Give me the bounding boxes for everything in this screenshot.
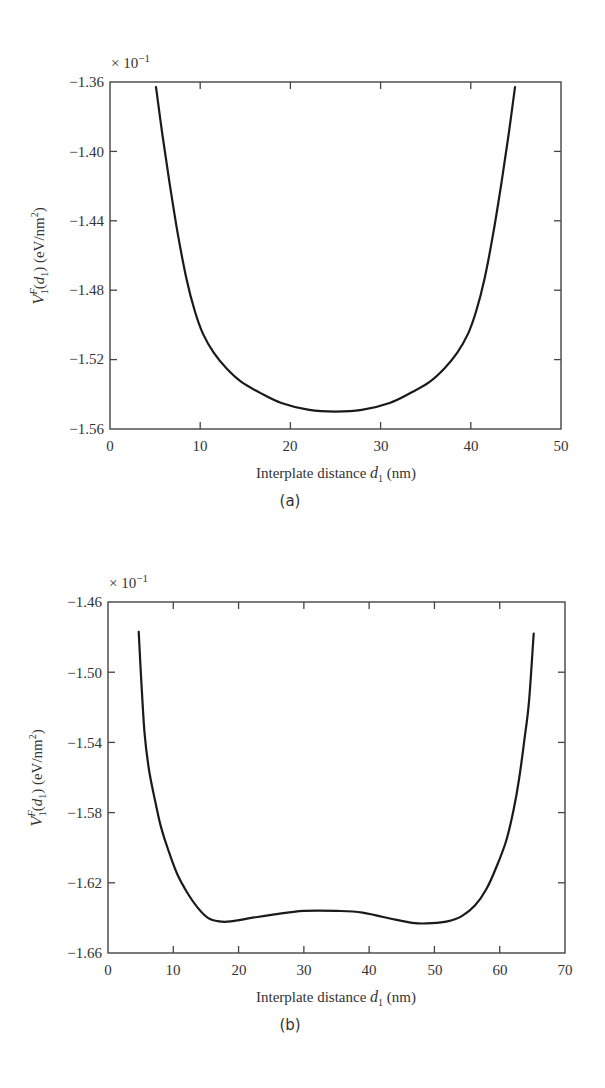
data-curve-b [139, 632, 534, 924]
x-tick-label: 0 [106, 438, 114, 454]
x-tick-label: 30 [374, 438, 389, 454]
panel-caption-a: (a) [280, 492, 301, 510]
x-tick-label: 10 [166, 962, 181, 978]
x-tick-label: 30 [297, 962, 312, 978]
y-multiplier-a: × 10−1 [111, 52, 150, 71]
y-tick-label: −1.46 [67, 594, 102, 610]
y-tick-labels-a: −1.36 −1.40 −1.44 −1.48 −1.52 −1.56 [69, 74, 104, 437]
y-tick-label: −1.58 [67, 805, 102, 821]
x-tick-labels-a: 0 10 20 30 40 50 [106, 438, 568, 454]
y-tick-label: −1.54 [67, 735, 102, 751]
y-tick-label: −1.52 [69, 351, 104, 367]
x-tick-label: 50 [554, 438, 569, 454]
y-tick-labels-b: −1.46 −1.50 −1.54 −1.58 −1.62 −1.66 [67, 594, 102, 961]
x-tick-label: 40 [362, 962, 377, 978]
y-multiplier-b: × 10−1 [109, 572, 148, 591]
x-axis-label-a: Interplate distance d1 (nm) [256, 464, 416, 484]
y-tick-label: −1.50 [67, 665, 102, 681]
panel-a: × 10−1 −1.36 −1.40 −1.44 −1.48 −1.52 −1.… [28, 52, 569, 510]
y-axis-label-a: VF1(d1) (eV/nm2) [28, 207, 50, 305]
y-tick-label: −1.62 [67, 875, 102, 891]
y-tick-label: −1.48 [69, 282, 104, 298]
x-axis-label-b: Interplate distance d1 (nm) [256, 988, 416, 1008]
data-curve-a [156, 87, 515, 411]
y-tick-label: −1.36 [69, 74, 104, 90]
figure: × 10−1 −1.36 −1.40 −1.44 −1.48 −1.52 −1.… [0, 0, 605, 1088]
x-tick-label: 20 [283, 438, 298, 454]
ticks-b [108, 602, 565, 953]
panel-b: × 10−1 −1.46 −1.50 −1.54 −1.58 −1.62 −1.… [26, 572, 573, 1034]
y-tick-label: −1.44 [69, 213, 104, 229]
y-tick-label: −1.56 [69, 421, 104, 437]
x-tick-label: 70 [558, 962, 573, 978]
plot-frame-a [110, 82, 561, 429]
plot-frame-b [108, 602, 565, 953]
x-tick-label: 20 [232, 962, 247, 978]
panel-caption-b: (b) [279, 1016, 300, 1034]
x-tick-label: 60 [493, 962, 508, 978]
x-tick-label: 0 [104, 962, 112, 978]
y-tick-label: −1.66 [67, 945, 102, 961]
x-tick-label: 40 [464, 438, 479, 454]
x-tick-label: 10 [193, 438, 208, 454]
ticks-a [110, 82, 561, 429]
y-axis-label-b: VF1(d1) (eV/nm2) [26, 729, 48, 827]
x-tick-label: 50 [428, 962, 443, 978]
x-tick-labels-b: 0 10 20 30 40 50 60 70 [104, 962, 572, 978]
y-tick-label: −1.40 [69, 144, 104, 160]
